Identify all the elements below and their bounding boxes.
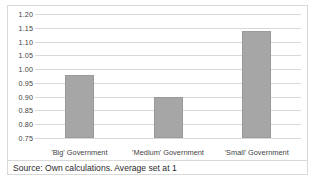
chart-figure-frame: 1.201.151.101.051.000.950.900.850.800.75… [7, 5, 308, 175]
y-axis-tick-label: 0.90 [19, 92, 33, 101]
y-axis-tick-label: 1.15 [19, 23, 33, 32]
y-axis-tick-label: 1.10 [19, 37, 33, 46]
bar[interactable] [242, 31, 271, 138]
y-axis-tick-label: 0.75 [19, 134, 33, 143]
y-axis-tick-label: 0.80 [19, 120, 33, 129]
chart-region: 1.201.151.101.051.000.950.900.850.800.75 [8, 6, 307, 146]
source-separator [8, 160, 307, 161]
bar[interactable] [154, 97, 183, 138]
source-note: Source: Own calculations. Average set at… [13, 162, 303, 174]
bars-layer [35, 14, 301, 138]
y-axis-tick-label: 0.95 [19, 78, 33, 87]
y-axis-tick-label: 0.85 [19, 106, 33, 115]
gridline [35, 138, 301, 139]
y-axis-tick-label: 1.00 [19, 65, 33, 74]
x-axis-tick-label: 'Big' Government [35, 146, 124, 160]
x-axis-category-labels: 'Big' Government'Medium' Government'Smal… [35, 146, 301, 160]
x-axis-tick-label: 'Medium' Government [124, 146, 213, 160]
bar[interactable] [65, 75, 94, 138]
plot-area [35, 14, 301, 138]
y-axis-tick-label: 1.05 [19, 51, 33, 60]
bar-slot [212, 14, 301, 138]
y-axis-tick-labels: 1.201.151.101.051.000.950.900.850.800.75 [8, 14, 35, 138]
bar-slot [35, 14, 124, 138]
bar-slot [124, 14, 213, 138]
x-axis-tick-label: 'Small' Government [212, 146, 301, 160]
y-axis-tick-label: 1.20 [19, 10, 33, 19]
